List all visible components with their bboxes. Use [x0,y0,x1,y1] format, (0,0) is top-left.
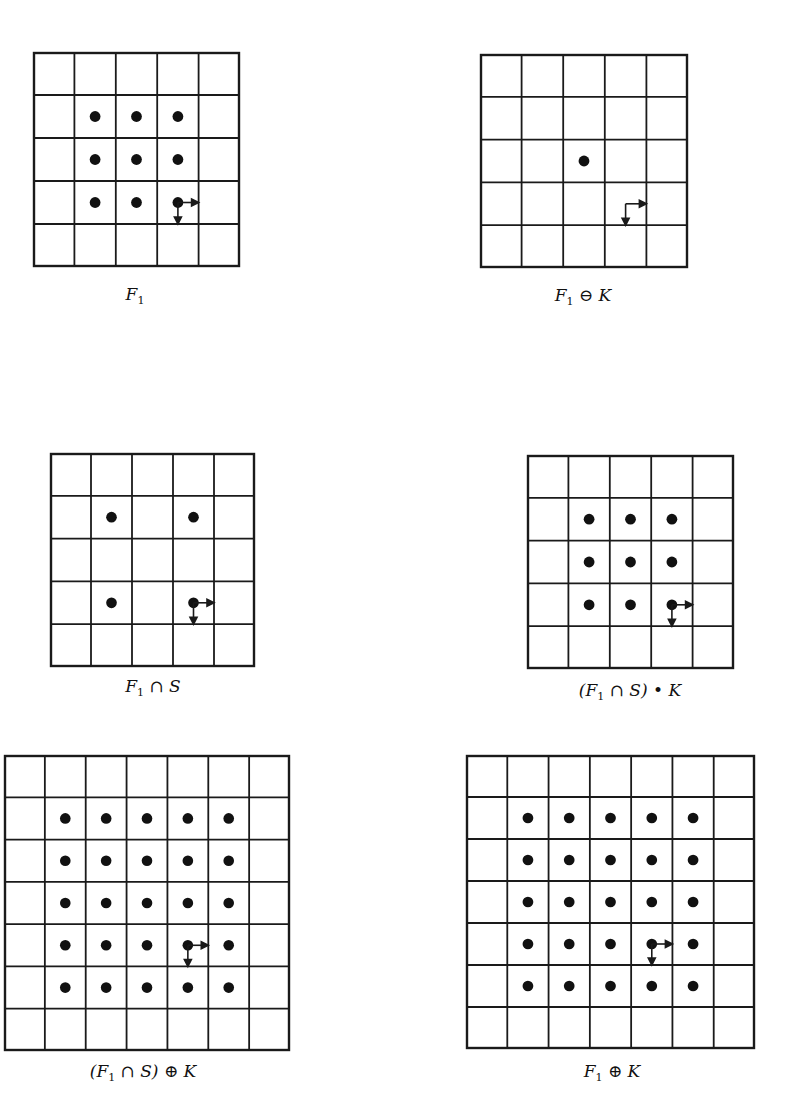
pixel-dot [60,940,71,951]
pixel-dot [142,813,153,824]
pixel-dot [688,855,699,866]
pixel-dot [605,855,616,866]
pixel-dot [646,981,657,992]
pixel-dot [101,813,112,824]
panel-f1-intersect-s [50,453,255,667]
grid [527,455,734,669]
pixel-dot [523,897,534,908]
panel-f1-erosion-k [480,54,688,268]
pixel-dot [688,939,699,950]
pixel-dot [223,855,234,866]
pixel-dot [142,898,153,909]
pixel-dot [667,514,678,525]
grid [466,755,755,1049]
pixel-dot [688,981,699,992]
pixel-dot [106,597,117,608]
pixel-dot [523,981,534,992]
pixel-dot [101,898,112,909]
pixel-dot [223,982,234,993]
pixel-dot [101,982,112,993]
pixel-dot [688,897,699,908]
pixel-dot [106,512,117,523]
pixel-dot [90,197,101,208]
panel-f1-dilation-k [466,755,755,1049]
pixel-dot [605,981,616,992]
pixel-dot [60,898,71,909]
caption-f1-intersect-s-closing-k: (F1 ∩ S) • K [579,680,681,703]
pixel-dot [625,557,636,568]
panel-f1 [33,52,240,267]
pixel-dot [223,898,234,909]
pixel-dot [605,813,616,824]
pixel-dot [131,197,142,208]
pixel-dot [142,940,153,951]
pixel-dot [223,940,234,951]
pixel-dot [142,855,153,866]
caption-f1: F1 [126,284,145,307]
pixel-dot [142,982,153,993]
origin-axes-icon [622,200,646,225]
pixel-dot [605,939,616,950]
grid [50,453,255,667]
pixel-dot [60,813,71,824]
pixel-dot [183,813,194,824]
caption-f1-dilation-k: F1 ⊕ K [584,1061,641,1084]
caption-f1-intersect-s: F1 ∩ S [125,676,181,699]
pixel-dot [688,813,699,824]
pixel-dot [523,855,534,866]
grid [4,755,290,1051]
pixel-dot [223,813,234,824]
panel-f1-intersect-s-dilation-k [4,755,290,1051]
pixel-dot [625,599,636,610]
pixel-dot [646,897,657,908]
pixel-dot [523,939,534,950]
pixel-dot [584,599,595,610]
pixel-dot [131,111,142,122]
pixel-dot [90,111,101,122]
origin-axes-icon [668,601,692,626]
origin-axes-icon [648,941,672,966]
pixel-dot [90,154,101,165]
origin-axes-icon [184,942,208,967]
pixel-dot [564,813,575,824]
pixel-dot [101,855,112,866]
pixel-dot [667,557,678,568]
panel-f1-intersect-s-closing-k [527,455,734,669]
pixel-dot [564,981,575,992]
pixel-dot [584,514,595,525]
grid [33,52,240,267]
pixel-dot [183,898,194,909]
pixel-dot [584,557,595,568]
pixel-dot [625,514,636,525]
pixel-dot [101,940,112,951]
origin-axes-icon [190,599,214,624]
pixel-dot [188,512,199,523]
pixel-dot [173,111,184,122]
pixel-dot [579,156,590,167]
pixel-dot [646,855,657,866]
pixel-dot [183,982,194,993]
pixel-dot [564,855,575,866]
pixel-dot [131,154,142,165]
caption-f1-intersect-s-dilation-k: (F1 ∩ S) ⊕ K [90,1061,197,1084]
pixel-dot [564,939,575,950]
pixel-dot [60,855,71,866]
pixel-dot [646,813,657,824]
pixel-dot [523,813,534,824]
origin-axes-icon [174,199,198,224]
pixel-dot [173,154,184,165]
grid [480,54,688,268]
pixel-dot [564,897,575,908]
caption-f1-erosion-k: F1 ⊖ K [555,285,612,308]
pixel-dot [60,982,71,993]
pixel-dot [605,897,616,908]
pixel-dot [183,855,194,866]
